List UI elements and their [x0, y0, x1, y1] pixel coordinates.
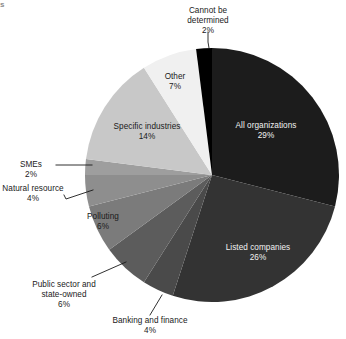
slice-label-listed-companies-line1: Listed companies: [226, 243, 291, 252]
slice-label-cannot-be-determined-line1: Cannot be: [189, 6, 227, 15]
pie-slices: [85, 48, 339, 302]
page-fragment-text: s: [0, 0, 4, 9]
slice-label-listed-companies: Listed companies 26%: [210, 243, 306, 263]
slice-label-public-sector-and-state-owned: Public sector and state-owned 6%: [16, 280, 112, 311]
slice-value-banking-and-finance: 4%: [96, 326, 204, 336]
slice-label-polluting: Polluting 6%: [76, 212, 130, 232]
slice-label-polluting-line1: Polluting: [87, 212, 119, 221]
slice-value-other: 7%: [147, 82, 203, 92]
slice-label-all-organizations: All organizations 29%: [218, 121, 314, 141]
slice-value-cannot-be-determined: 2%: [158, 26, 258, 36]
slice-label-public-sector-line1: Public sector and: [32, 280, 96, 289]
slice-label-smes-line1: SMEs: [20, 160, 42, 169]
slice-label-other: Other 7%: [147, 72, 203, 92]
slice-label-other-line1: Other: [165, 72, 186, 81]
slice-label-all-organizations-line1: All organizations: [236, 121, 297, 130]
leader-line-public-sector: [92, 262, 126, 277]
slice-label-cannot-be-determined-line2: determined: [187, 16, 228, 25]
slice-label-natural-resource: Natural resource 4%: [2, 184, 64, 204]
slice-value-public-sector: 6%: [16, 300, 112, 310]
slice-value-polluting: 6%: [76, 222, 130, 232]
slice-value-listed-companies: 26%: [210, 253, 306, 263]
slice-label-cannot-be-determined: Cannot be determined 2%: [158, 6, 258, 37]
slice-value-natural-resource: 4%: [2, 194, 64, 204]
slice-label-smes: SMEs 2%: [8, 160, 54, 180]
slice-label-banking-and-finance-line1: Banking and finance: [112, 316, 187, 325]
leader-line-banking-and-finance: [150, 295, 162, 315]
slice-label-specific-industries: Specific industries 14%: [97, 122, 197, 142]
slice-label-natural-resource-line1: Natural resource: [2, 184, 63, 193]
slice-label-public-sector-line2: state-owned: [41, 290, 86, 299]
slice-value-smes: 2%: [8, 170, 54, 180]
slice-value-specific-industries: 14%: [97, 132, 197, 142]
pie-chart-figure: s Cannot be determined 2% Other 7% All o…: [0, 0, 346, 339]
slice-label-banking-and-finance: Banking and finance 4%: [96, 316, 204, 336]
slice-value-all-organizations: 29%: [218, 131, 314, 141]
slice-label-specific-industries-line1: Specific industries: [114, 122, 181, 131]
